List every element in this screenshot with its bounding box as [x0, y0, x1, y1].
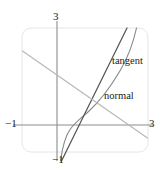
- tangent-line-annotation: tangent: [112, 56, 143, 67]
- tangent-normal-plot-figure: 3 −1 −1 3 tangent normal: [0, 0, 164, 170]
- x-axis-tick-label-left: −1: [5, 118, 17, 129]
- plot-canvas: [0, 0, 164, 170]
- normal-line-annotation: normal: [104, 91, 134, 102]
- x-axis-tick-label-right: 3: [149, 118, 155, 129]
- y-axis-tick-label-bottom: −1: [52, 154, 64, 165]
- y-axis-tick-label-top: 3: [53, 11, 59, 22]
